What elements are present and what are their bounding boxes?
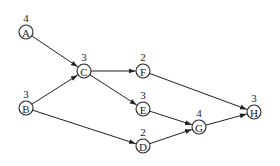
node-g: G4	[192, 107, 206, 134]
node-label: H	[250, 107, 258, 119]
node-label: B	[22, 103, 29, 115]
node-weight: 3	[23, 88, 29, 100]
node-weight: 3	[140, 89, 146, 101]
edge-c-to-e	[90, 75, 137, 105]
node-weight: 4	[23, 12, 29, 24]
node-label: C	[80, 66, 87, 78]
node-e: E3	[136, 89, 150, 116]
nodes-layer: A4B3C3F2E3D2G4H3	[19, 12, 261, 153]
edge-f-to-h	[150, 73, 247, 109]
edge-g-to-h	[206, 114, 247, 125]
node-c: C3	[77, 51, 91, 78]
node-weight: 4	[196, 107, 202, 119]
node-weight: 3	[81, 51, 87, 63]
edge-d-to-g	[150, 129, 192, 143]
node-f: F2	[136, 51, 150, 78]
node-label: F	[140, 66, 146, 78]
node-a: A4	[19, 12, 33, 39]
dependency-graph: A4B3C3F2E3D2G4H3	[0, 0, 280, 166]
edge-b-to-d	[33, 110, 136, 144]
edge-e-to-g	[150, 111, 192, 125]
node-h: H3	[247, 92, 261, 119]
node-weight: 3	[251, 92, 257, 104]
node-weight: 2	[140, 51, 146, 63]
node-label: E	[140, 104, 147, 116]
edge-a-to-c	[32, 36, 78, 67]
node-label: G	[195, 122, 203, 134]
edge-b-to-c	[32, 75, 78, 104]
node-d: D2	[136, 126, 150, 153]
node-label: D	[139, 141, 147, 153]
node-b: B3	[19, 88, 33, 115]
graph-svg: A4B3C3F2E3D2G4H3	[0, 0, 280, 166]
node-weight: 2	[140, 126, 146, 138]
node-label: A	[22, 27, 30, 39]
